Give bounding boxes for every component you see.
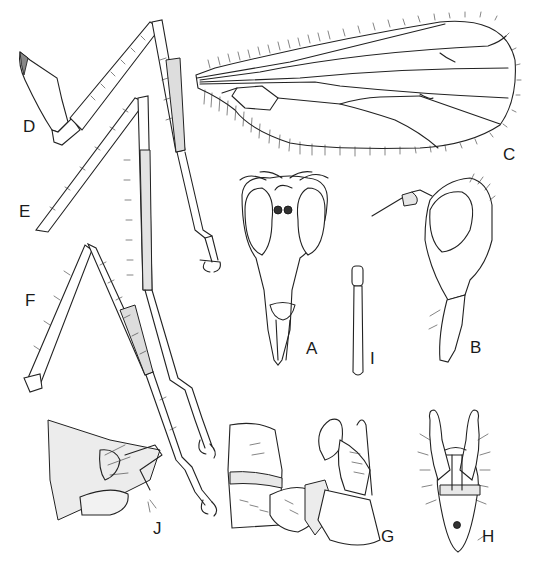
panel-label-I: I xyxy=(370,350,375,367)
panel-label-A: A xyxy=(306,340,317,357)
panel-label-H: H xyxy=(482,528,494,545)
panel-label-G: G xyxy=(381,528,394,545)
wing-drawing-C xyxy=(196,12,521,156)
male-terminalia-dorsal-drawing-H xyxy=(418,410,490,552)
female-terminalia-drawing-J xyxy=(48,420,162,520)
panel-label-E: E xyxy=(19,203,30,220)
figure-plate: D E F C A I B J G H xyxy=(0,0,543,562)
head-frontal-drawing-A xyxy=(240,172,328,365)
panel-label-J: J xyxy=(153,520,162,537)
head-lateral-drawing-B xyxy=(372,174,495,362)
fore-leg-drawing-D xyxy=(20,20,221,272)
mid-leg-drawing-E xyxy=(36,96,215,458)
male-terminalia-lateral-drawing-G xyxy=(228,419,380,545)
panel-label-C: C xyxy=(503,146,515,163)
panel-label-B: B xyxy=(470,339,481,356)
plate-drawings xyxy=(0,0,543,562)
appendage-drawing-I xyxy=(352,266,363,375)
panel-label-F: F xyxy=(25,292,35,309)
panel-label-D: D xyxy=(23,118,35,135)
